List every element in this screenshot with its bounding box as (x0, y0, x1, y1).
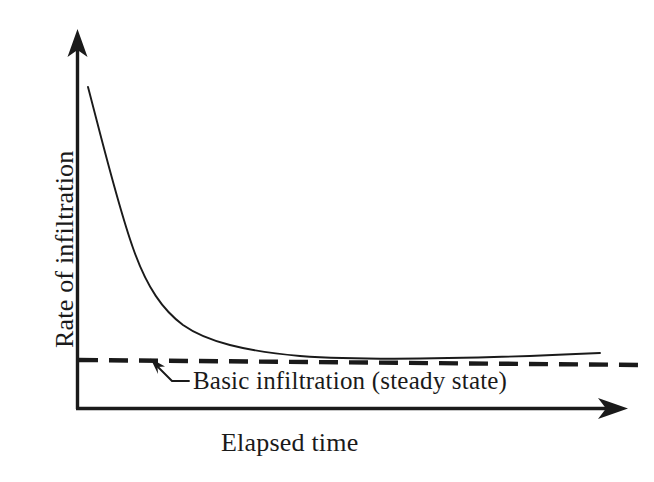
x-axis-label: Elapsed time (221, 428, 358, 458)
y-axis-label: Rate of infiltration (50, 150, 80, 348)
infiltration-curve (88, 87, 600, 359)
infiltration-rate-figure: Rate of infiltration Basic infiltration … (0, 0, 654, 482)
annotation-label: Basic infiltration (steady state) (193, 367, 507, 395)
steady-state-dashed-line (79, 360, 646, 365)
plot-area (0, 0, 654, 482)
annotation-leader-line (157, 366, 189, 381)
